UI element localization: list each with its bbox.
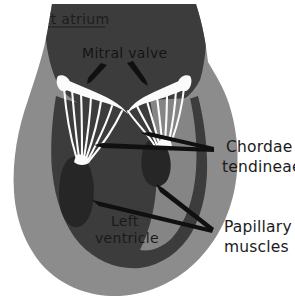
label-left-atrium: Left atrium: [29, 11, 109, 27]
heart-diagram-svg: Left atrium Mitral valve Left ventricle: [0, 0, 295, 301]
label-papillary-line2: muscles: [224, 238, 289, 256]
label-chordae-line1: Chordae: [226, 138, 293, 156]
label-left-ventricle-line2: ventricle: [95, 230, 159, 246]
label-chordae-line2: tendineae: [222, 158, 295, 176]
label-papillary-line1: Papillary: [224, 218, 292, 236]
label-mitral-valve: Mitral valve: [82, 45, 167, 61]
label-left-ventricle-line1: Left: [111, 213, 139, 229]
annotation-labels: Chordae tendineae Papillary muscles: [222, 138, 295, 256]
heart-cross-section-figure: Left atrium Mitral valve Left ventricle: [0, 0, 295, 301]
papillary-muscle-left: [59, 156, 94, 227]
